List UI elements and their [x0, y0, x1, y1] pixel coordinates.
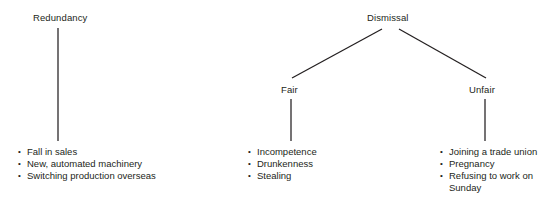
reason-list-unfair: Joining a trade union Pregnancy Refusing…: [440, 146, 545, 194]
node-label-dismissal: Dismissal: [367, 12, 409, 24]
list-item: Drunkenness: [248, 158, 378, 170]
list-item: Pregnancy: [440, 158, 545, 170]
list-item: Joining a trade union: [440, 146, 545, 158]
node-label-fair: Fair: [281, 84, 298, 96]
node-label-redundancy: Redundancy: [33, 12, 87, 24]
reason-list-redundancy: Fall in sales New, automated machinery S…: [18, 146, 158, 182]
list-item: Switching production overseas: [18, 170, 158, 182]
list-item: Incompetence: [248, 146, 378, 158]
connector-dismissal-to-unfair: [399, 29, 486, 78]
list-item: Refusing to work on Sunday: [440, 170, 545, 193]
diagram-canvas: Redundancy Dismissal Fair Unfair Fall in…: [0, 0, 548, 220]
list-item: Fall in sales: [18, 146, 158, 158]
reason-list-fair: Incompetence Drunkenness Stealing: [248, 146, 378, 182]
list-item: Stealing: [248, 170, 378, 182]
node-label-unfair: Unfair: [469, 84, 495, 96]
connector-dismissal-to-fair: [292, 29, 382, 78]
list-item: New, automated machinery: [18, 158, 158, 170]
